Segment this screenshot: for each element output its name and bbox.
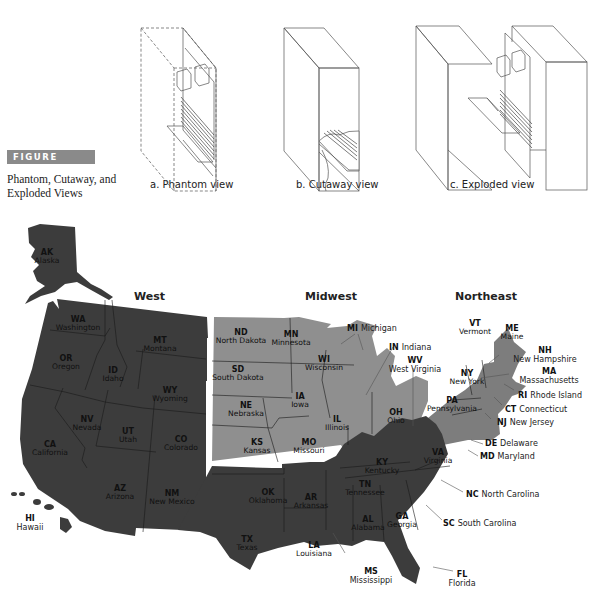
state-abbr-in: IN [389, 343, 399, 352]
state-name-de: Delaware [500, 439, 538, 448]
state-name-vt: Vermont [459, 327, 491, 336]
state-name-sd: South Dakota [212, 373, 263, 382]
state-abbr-de: DE [485, 439, 497, 448]
exploded-view-drawing [416, 26, 587, 190]
state-name-nj: New Jersey [510, 418, 555, 427]
state-name-ut: Utah [119, 435, 137, 444]
state-name-co: Colorado [164, 443, 198, 452]
state-abbr-ri: RI [518, 391, 527, 400]
state-name-md: Maryland [498, 452, 535, 461]
technical-drawings [0, 0, 605, 200]
state-name-in: Indiana [402, 343, 432, 352]
state-name-nm: New Mexico [149, 497, 195, 506]
state-name-hi: Hawaii [17, 523, 44, 532]
state-name-pa: Pennsylvania [427, 404, 477, 413]
state-name-az: Arizona [106, 492, 135, 501]
state-abbr-fl: FL [457, 570, 468, 579]
state-abbr-ct: CT [505, 405, 517, 414]
state-name-wi: Wisconsin [305, 363, 343, 372]
state-name-ga: Georgia [387, 520, 417, 529]
state-name-ok: Oklahoma [249, 496, 288, 505]
state-name-oh: Ohio [387, 416, 405, 425]
state-name-wy: Wyoming [152, 394, 188, 403]
state-name-al: Alabama [351, 523, 384, 532]
state-name-mn: Minnesota [271, 338, 310, 347]
state-name-tx: Texas [236, 543, 258, 552]
state-name-mo: Missouri [293, 446, 324, 455]
state-abbr-ma: MA [542, 367, 557, 376]
region-shape-northeast [428, 328, 526, 448]
state-abbr-sc: SC [443, 519, 455, 528]
state-name-ca: California [32, 448, 68, 457]
state-name-fl: Florida [448, 579, 475, 588]
state-name-ms: Mississippi [350, 576, 393, 585]
state-name-ma: Massachusetts [519, 376, 578, 385]
state-abbr-nc: NC [466, 490, 479, 499]
callout-nc: NCNorth Carolina [466, 490, 540, 499]
state-name-mi: Michigan [361, 324, 397, 333]
state-name-ar: Arkansas [294, 501, 329, 510]
region-label-west: West [134, 290, 165, 303]
state-name-nv: Nevada [73, 423, 102, 432]
callout-de: DEDelaware [485, 439, 538, 448]
state-name-ky: Kentucky [365, 466, 400, 475]
region-label-midwest: Midwest [305, 290, 357, 303]
state-name-ny: New York [450, 377, 485, 386]
callout-ri: RIRhode Island [518, 391, 582, 400]
state-name-la: Louisiana [296, 549, 332, 558]
state-name-il: Illinois [325, 423, 349, 432]
state-name-sc: South Carolina [458, 519, 517, 528]
state-name-mt: Montana [143, 344, 176, 353]
state-name-ak: Alaska [35, 256, 60, 265]
state-abbr-mi: MI [347, 324, 358, 333]
callout-mi: MIMichigan [347, 324, 397, 333]
state-name-ne: Nebraska [228, 409, 264, 418]
callout-sc: SCSouth Carolina [443, 519, 516, 528]
state-name-ct: Connecticut [519, 405, 567, 414]
cutaway-view-drawing [284, 28, 359, 191]
state-name-or: Oregon [52, 362, 80, 371]
state-name-ia: Iowa [291, 400, 309, 409]
state-abbr-hi: HI [25, 514, 35, 523]
state-abbr-wv: WV [407, 356, 423, 365]
state-name-nd: North Dakota [216, 336, 267, 345]
callout-in: INIndiana [389, 343, 431, 352]
state-name-me: Maine [501, 332, 524, 341]
state-name-ri: Rhode Island [530, 391, 582, 400]
callout-ct: CTConnecticut [505, 405, 567, 414]
state-name-wa: Washington [56, 323, 101, 332]
state-name-wv: West Virginia [389, 365, 441, 374]
state-name-va: Virginia [424, 456, 453, 465]
region-label-northeast: Northeast [455, 290, 517, 303]
callout-nj: NJNew Jersey [497, 418, 554, 427]
state-name-nh: New Hampshire [513, 355, 576, 364]
state-name-tn: Tennessee [344, 488, 385, 497]
state-abbr-nh: NH [538, 346, 551, 355]
state-name-nc: North Carolina [482, 490, 540, 499]
callout-md: MDMaryland [480, 452, 535, 461]
state-name-ks: Kansas [244, 446, 271, 455]
state-name-id: Idaho [102, 374, 124, 383]
us-regions-map: West Midwest Northeast AK Alaska WA Wash… [0, 200, 605, 590]
state-abbr-md: MD [480, 452, 495, 461]
phantom-view-drawing [141, 28, 216, 191]
state-abbr-nj: NJ [497, 418, 507, 427]
state-abbr-ms: MS [364, 567, 378, 576]
